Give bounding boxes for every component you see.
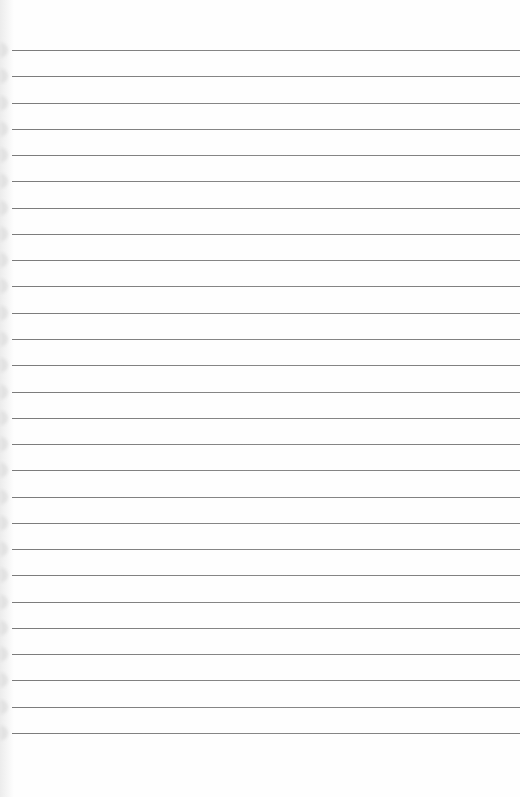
ruled-line [12,602,520,603]
ruled-line [12,313,520,314]
edge-notch [0,463,8,477]
ruled-line [12,365,520,366]
edge-notch [0,96,8,110]
ruled-line [12,497,520,498]
edge-notch [0,490,8,504]
edge-notch [0,385,8,399]
perforated-left-edge [0,0,14,797]
ruled-line [12,50,520,51]
edge-notch [0,700,8,714]
edge-notch [0,306,8,320]
ruled-line [12,444,520,445]
ruled-line [12,470,520,471]
ruled-line [12,549,520,550]
ruled-line [12,260,520,261]
ruled-line [12,392,520,393]
ruled-line [12,707,520,708]
edge-notch [0,69,8,83]
edge-notch [0,201,8,215]
ruled-line [12,103,520,104]
edge-notch [0,516,8,530]
edge-notch [0,174,8,188]
ruled-line [12,129,520,130]
lined-paper-sheet [0,0,520,797]
ruled-line [12,76,520,77]
edge-notch [0,595,8,609]
ruled-line [12,286,520,287]
ruled-line [12,155,520,156]
edge-notch [0,647,8,661]
ruled-line [12,575,520,576]
edge-notch [0,332,8,346]
edge-notch [0,122,8,136]
edge-notch [0,621,8,635]
ruled-line [12,680,520,681]
ruled-line [12,733,520,734]
edge-notch [0,148,8,162]
edge-notch [0,437,8,451]
ruled-line [12,208,520,209]
ruled-line [12,339,520,340]
edge-notch [0,726,8,740]
edge-notch [0,411,8,425]
edge-notch [0,358,8,372]
edge-notch [0,673,8,687]
ruled-line [12,234,520,235]
ruled-line [12,628,520,629]
ruled-line [12,181,520,182]
edge-notch [0,568,8,582]
ruled-line [12,654,520,655]
edge-notch [0,253,8,267]
ruled-line [12,418,520,419]
ruled-line [12,523,520,524]
edge-notch [0,279,8,293]
edge-notch [0,227,8,241]
edge-notch [0,542,8,556]
edge-notch [0,43,8,57]
